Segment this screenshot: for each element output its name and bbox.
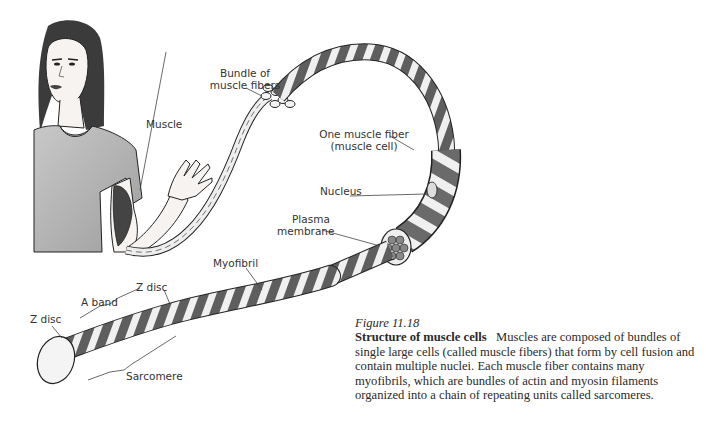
label-bundle-line1: Bundle of [200,67,290,79]
label-plasma-line1: Plasma [292,213,330,225]
label-muscle: Muscle [146,118,182,130]
label-fiber-line1: One muscle fiber [314,128,414,140]
person-drawing [34,20,212,256]
label-z-disc-left: Z disc [30,313,61,325]
label-myofibril: Myofibril [213,257,258,269]
label-plasma-line2: membrane [277,225,334,237]
label-sarcomere: Sarcomere [126,370,183,382]
figure-number: Figure 11.18 [355,316,703,330]
label-z-disc-mid: Z disc [136,281,167,293]
label-fiber-line2: (muscle cell) [314,140,414,152]
label-a-band: A band [81,296,118,308]
label-bundle-line2: muscle fibers [200,79,290,91]
label-nucleus: Nucleus [320,185,362,197]
figure-title: Structure of muscle cells [355,330,487,344]
figure-caption: Figure 11.18 Structure of muscle cells M… [355,316,703,402]
